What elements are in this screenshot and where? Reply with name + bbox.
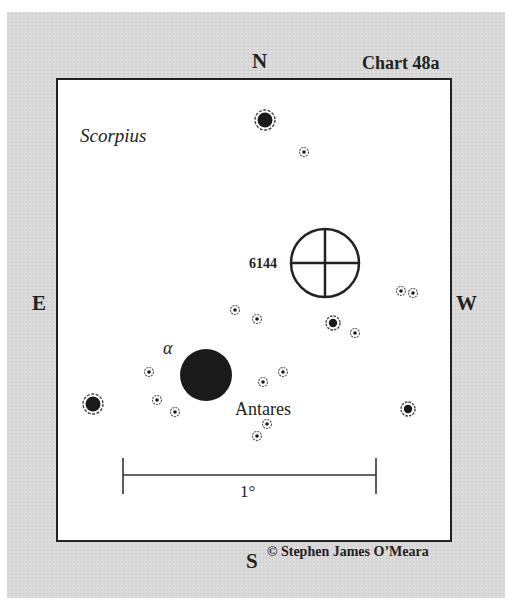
medium-star-icon bbox=[401, 402, 415, 416]
copyright-label: © Stephen James O’Meara bbox=[267, 545, 429, 559]
star-name-label: Antares bbox=[235, 400, 291, 418]
antares-star-icon bbox=[180, 349, 232, 401]
bright-star-icon bbox=[255, 110, 275, 130]
medium-star-icon bbox=[326, 316, 340, 330]
bright-star-icon bbox=[83, 394, 103, 414]
star-field bbox=[0, 0, 513, 603]
faint-star-core-icon bbox=[147, 150, 415, 438]
greek-letter-label: α bbox=[163, 339, 172, 357]
south-label: S bbox=[246, 551, 258, 572]
object-label: 6144 bbox=[249, 257, 277, 271]
globular-cluster-icon bbox=[291, 229, 359, 297]
north-label: N bbox=[252, 51, 267, 72]
chart-title: Chart 48a bbox=[362, 54, 440, 72]
scale-label: 1° bbox=[240, 483, 255, 500]
faint-star-icon bbox=[145, 148, 418, 441]
west-label: W bbox=[456, 293, 477, 314]
constellation-label: Scorpius bbox=[80, 126, 147, 145]
east-label: E bbox=[32, 293, 46, 314]
